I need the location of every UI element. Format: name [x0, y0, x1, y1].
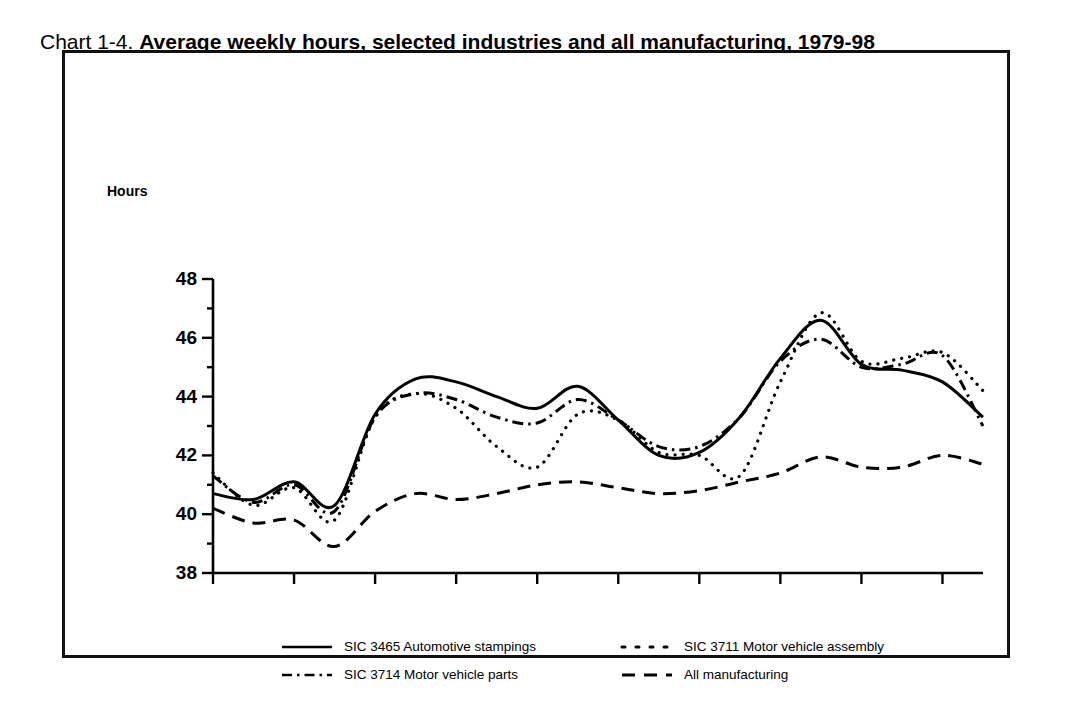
y-tick-label: 40	[157, 503, 197, 525]
y-tick-label: 48	[157, 268, 197, 290]
legend-label-0: SIC 3465 Automotive stampings	[344, 639, 536, 654]
legend-item-0: SIC 3465 Automotive stampings	[280, 639, 620, 654]
legend-label-3: All manufacturing	[684, 667, 788, 682]
legend-item-2: SIC 3714 Motor vehicle parts	[280, 667, 620, 682]
legend-swatch-dashed-icon	[620, 668, 674, 682]
y-axis-title: Hours	[107, 183, 147, 199]
legend-swatch-dashdot-icon	[280, 668, 334, 682]
y-tick-label: 38	[157, 562, 197, 584]
legend-label-2: SIC 3714 Motor vehicle parts	[344, 667, 518, 682]
chart-series-line	[213, 339, 983, 513]
legend-item-1: SIC 3711 Motor vehicle assembly	[620, 639, 980, 654]
chart-series-line	[213, 320, 983, 508]
chart-series-line	[213, 313, 983, 523]
legend-row: SIC 3465 Automotive stampings SIC 3711 M…	[280, 639, 1000, 654]
y-tick-label: 46	[157, 327, 197, 349]
plot-area: 484644424038 197919811983198519871989199…	[151, 229, 1013, 589]
legend-label-1: SIC 3711 Motor vehicle assembly	[684, 639, 884, 654]
y-tick-label: 42	[157, 444, 197, 466]
chart-frame: Hours 484644424038 197919811983198519871…	[62, 50, 1010, 658]
chart-series-line	[213, 455, 983, 546]
chart-legend: SIC 3465 Automotive stampings SIC 3711 M…	[280, 639, 1000, 695]
legend-item-3: All manufacturing	[620, 667, 980, 682]
legend-swatch-solid-icon	[280, 640, 334, 654]
legend-swatch-dotted-icon	[620, 640, 674, 654]
legend-row: SIC 3714 Motor vehicle parts All manufac…	[280, 667, 1000, 682]
y-tick-label: 44	[157, 386, 197, 408]
chart-svg	[151, 229, 1013, 589]
